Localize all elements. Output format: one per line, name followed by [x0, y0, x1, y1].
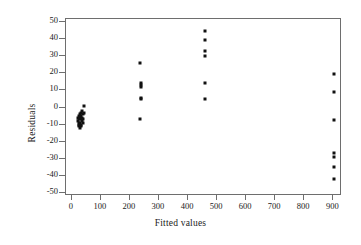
data-point — [82, 118, 85, 121]
x-axis-title: Fitted values — [0, 218, 361, 228]
data-point — [204, 97, 207, 100]
y-axis-tick-label: 30 — [30, 50, 58, 59]
plot-frame — [65, 18, 341, 195]
x-axis-tick-label: 400 — [172, 201, 202, 211]
data-point — [332, 177, 335, 180]
data-point — [332, 166, 335, 169]
x-axis-tick — [274, 195, 275, 200]
data-point — [204, 50, 207, 53]
y-axis-tick-label: 10 — [30, 84, 58, 93]
data-point — [332, 91, 335, 94]
y-axis-tick-label: -50 — [30, 187, 58, 196]
x-axis-tick-label: 700 — [259, 201, 289, 211]
data-point — [139, 97, 142, 100]
y-axis-tick-label: -10 — [30, 119, 58, 128]
data-point — [139, 117, 142, 120]
x-axis-tick-label: 100 — [85, 201, 115, 211]
data-point — [332, 119, 335, 122]
x-axis-tick-label: 200 — [114, 201, 144, 211]
x-axis-tick-label: 800 — [288, 201, 318, 211]
data-point — [83, 111, 86, 114]
x-axis-tick — [332, 195, 333, 200]
y-axis-tick-label: 40 — [30, 33, 58, 42]
y-axis-tick-label: -20 — [30, 136, 58, 145]
data-point — [204, 29, 207, 32]
data-point — [139, 62, 142, 65]
x-axis-tick-label: 500 — [201, 201, 231, 211]
data-point — [204, 54, 207, 57]
data-point — [332, 155, 335, 158]
x-axis-tick-label: 300 — [143, 201, 173, 211]
data-point — [332, 73, 335, 76]
x-axis-tick — [71, 195, 72, 200]
data-point — [204, 39, 207, 42]
data-point — [83, 104, 86, 107]
residual-scatter-plot: Residuals 50403020100-10-20-30-40-50 010… — [0, 0, 361, 245]
data-point — [204, 81, 207, 84]
plot-data-area — [66, 19, 340, 194]
x-axis-tick-label: 0 — [56, 201, 86, 211]
x-axis-tick — [187, 195, 188, 200]
y-axis-tick-label: -30 — [30, 153, 58, 162]
data-point — [139, 86, 142, 89]
y-axis-tick-label: 50 — [30, 16, 58, 25]
x-axis-tick — [100, 195, 101, 200]
x-axis-tick-label: 900 — [317, 201, 347, 211]
y-axis-tick-label: 0 — [30, 102, 58, 111]
data-point — [81, 121, 84, 124]
x-axis-tick — [158, 195, 159, 200]
y-axis-tick-label: 20 — [30, 67, 58, 76]
x-axis-tick — [216, 195, 217, 200]
x-axis-tick-label: 600 — [230, 201, 260, 211]
x-axis-tick — [129, 195, 130, 200]
y-axis-tick-label: -40 — [30, 170, 58, 179]
x-axis-tick — [303, 195, 304, 200]
x-axis-tick — [245, 195, 246, 200]
